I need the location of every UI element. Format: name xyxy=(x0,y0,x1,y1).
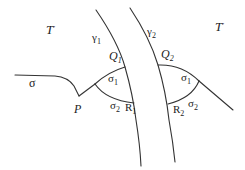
region-label-t-left: T' xyxy=(46,23,55,36)
point-label-r1: R1 xyxy=(125,102,136,116)
arc-label-right-sigma2: σ2 xyxy=(188,98,198,112)
curve-gamma1 xyxy=(96,10,141,166)
arc-right-sigma1 xyxy=(158,65,199,81)
point-label-r2: R2 xyxy=(173,104,184,118)
point-label-p: P xyxy=(74,103,81,115)
diagram-canvas xyxy=(0,0,245,170)
curve-label-gamma2: γ2 xyxy=(147,26,156,40)
region-label-t-right: T' xyxy=(215,20,224,33)
point-label-q2: Q2 xyxy=(161,48,174,63)
curve-label-gamma1: γ1 xyxy=(92,32,101,46)
arc-label-left-sigma2: σ2 xyxy=(110,100,120,114)
arc-label-left-sigma1: σ1 xyxy=(108,73,118,87)
point-label-q1: Q1 xyxy=(109,50,122,65)
segment-p-junction xyxy=(79,84,95,96)
curve-label-sigma: σ xyxy=(29,77,35,89)
curve-sigma xyxy=(15,75,79,96)
segment-right-tail xyxy=(199,81,233,110)
arc-label-right-sigma1: σ1 xyxy=(181,72,191,86)
